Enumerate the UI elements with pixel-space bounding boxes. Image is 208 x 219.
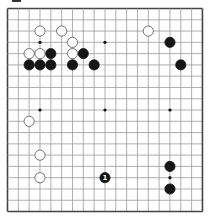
star-point	[38, 41, 41, 44]
go-board[interactable]: 1	[0, 0, 208, 219]
star-point	[168, 176, 171, 179]
black-stone	[24, 60, 34, 70]
white-stone	[67, 37, 77, 47]
move-number-label: 1	[103, 174, 108, 182]
black-stone	[46, 49, 56, 59]
star-point	[103, 108, 106, 111]
black-stone	[165, 161, 175, 171]
white-stone	[24, 116, 34, 126]
black-stone	[35, 60, 45, 70]
star-point	[38, 108, 41, 111]
black-stone	[165, 184, 175, 194]
white-stone	[67, 49, 77, 59]
white-stone	[35, 49, 45, 59]
black-stone	[78, 49, 88, 59]
white-stone	[35, 150, 45, 160]
black-stone	[165, 37, 175, 47]
white-stone	[143, 26, 153, 36]
black-stone	[46, 60, 56, 70]
black-stone	[89, 60, 99, 70]
black-stone	[67, 60, 77, 70]
star-point	[103, 41, 106, 44]
white-stone	[35, 173, 45, 183]
black-stone	[176, 60, 186, 70]
white-stone	[35, 26, 45, 36]
star-point	[168, 108, 171, 111]
white-stone	[57, 26, 67, 36]
black-stone: 1	[100, 173, 110, 183]
white-stone	[24, 49, 34, 59]
